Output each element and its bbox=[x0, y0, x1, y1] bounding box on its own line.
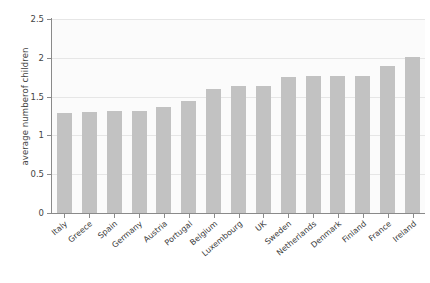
bar bbox=[82, 112, 97, 213]
x-tick-mark bbox=[263, 214, 264, 218]
x-label-text: Ireland bbox=[391, 220, 417, 244]
bar bbox=[405, 57, 420, 213]
x-tick-mark bbox=[388, 214, 389, 218]
y-tick-label: 0.5 bbox=[4, 170, 44, 179]
x-tick-mark bbox=[313, 214, 314, 218]
bar bbox=[306, 76, 321, 213]
y-tick-label: 2 bbox=[4, 54, 44, 63]
bar bbox=[132, 111, 147, 213]
x-tick-mark bbox=[214, 214, 215, 218]
x-tick-mark bbox=[239, 214, 240, 218]
y-tick-label: 1 bbox=[4, 131, 44, 140]
gridline bbox=[52, 58, 425, 59]
x-tick-mark bbox=[413, 214, 414, 218]
bar bbox=[380, 66, 395, 213]
y-tick-mark bbox=[47, 97, 51, 98]
y-tick-mark bbox=[47, 213, 51, 214]
bar bbox=[231, 86, 246, 213]
bar bbox=[256, 86, 271, 213]
y-tick-mark bbox=[47, 135, 51, 136]
x-label-text: Italy bbox=[51, 220, 69, 237]
bar bbox=[57, 113, 72, 213]
y-tick-label: 0 bbox=[4, 209, 44, 218]
gridline bbox=[52, 19, 425, 20]
bar bbox=[355, 76, 370, 213]
bar bbox=[330, 76, 345, 213]
bar bbox=[156, 107, 171, 213]
x-tick-mark bbox=[139, 214, 140, 218]
bar bbox=[181, 101, 196, 213]
y-axis-line bbox=[51, 18, 52, 214]
x-tick-mark bbox=[164, 214, 165, 218]
x-tick-mark bbox=[363, 214, 364, 218]
x-tick-mark bbox=[288, 214, 289, 218]
y-tick-label: 1.5 bbox=[4, 93, 44, 102]
x-tick-mark bbox=[89, 214, 90, 218]
bar bbox=[206, 89, 221, 213]
x-tick-mark bbox=[114, 214, 115, 218]
bar bbox=[281, 77, 296, 213]
x-tick-mark bbox=[338, 214, 339, 218]
y-tick-mark bbox=[47, 19, 51, 20]
y-tick-label: 2.5 bbox=[4, 15, 44, 24]
y-axis-title: average numberof children bbox=[17, 0, 33, 213]
y-tick-mark bbox=[47, 58, 51, 59]
bar bbox=[107, 111, 122, 213]
y-tick-mark bbox=[47, 174, 51, 175]
bar-chart-figure: average numberof children 00.511.522.5 I… bbox=[0, 0, 430, 283]
x-tick-mark bbox=[64, 214, 65, 218]
x-tick-mark bbox=[189, 214, 190, 218]
x-axis-label: Germany bbox=[0, 220, 144, 283]
x-label-text: UK bbox=[255, 220, 269, 233]
